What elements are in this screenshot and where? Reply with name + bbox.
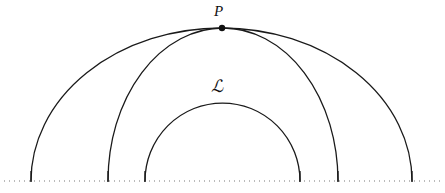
outer-arc: [31, 28, 412, 181]
arc-family-label: ℒ: [211, 78, 224, 95]
inner-arc: [145, 103, 300, 181]
figure-canvas: P ℒ: [0, 0, 445, 193]
arc-diagram-svg: [0, 0, 445, 193]
arc-foot-ticks: [31, 171, 412, 182]
point-p-label: P: [214, 4, 223, 19]
point-p-marker: [219, 25, 225, 31]
middle-arc: [108, 28, 338, 181]
